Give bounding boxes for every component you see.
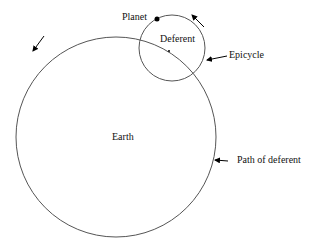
epicycle-circle <box>139 15 205 81</box>
planet-dot <box>155 17 160 22</box>
epicycle-diagram <box>0 0 318 249</box>
deferent-motion-arrow-icon <box>33 36 44 51</box>
epicycle-motion-arrow-icon <box>192 15 204 27</box>
path-pointer-arrow-icon <box>215 160 228 161</box>
epicycle-center-dot <box>168 50 170 52</box>
epicycle-pointer-arrow-icon <box>207 56 227 60</box>
path-of-deferent-label: Path of deferent <box>237 155 301 165</box>
earth-label: Earth <box>112 132 134 142</box>
deferent-label: Deferent <box>160 34 195 44</box>
planet-label: Planet <box>122 12 147 22</box>
epicycle-label: Epicycle <box>229 50 264 60</box>
